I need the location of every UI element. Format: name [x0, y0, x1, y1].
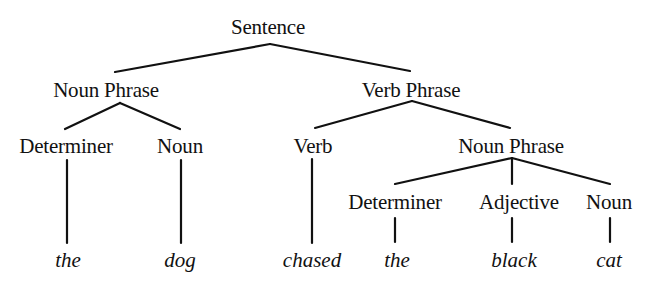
branch-np1-det: [65, 103, 120, 129]
branch-vp-verb: [315, 101, 412, 128]
word-the-1: the: [55, 249, 81, 271]
syntax-tree-diagram: Sentence Noun Phrase Verb Phrase Determi…: [0, 0, 647, 290]
branch-np2-noun: [512, 158, 610, 184]
node-noun-phrase-subject: Noun Phrase: [53, 79, 159, 101]
word-chased: chased: [283, 249, 341, 271]
node-verb: Verb: [294, 135, 333, 157]
branch-sentence-np: [115, 44, 270, 72]
word-dog: dog: [164, 249, 196, 271]
branch-np1-noun: [120, 103, 180, 129]
branch-np2-det: [395, 158, 512, 184]
node-determiner-object: Determiner: [348, 191, 442, 213]
node-verb-phrase: Verb Phrase: [362, 79, 461, 101]
branch-sentence-vp: [270, 44, 410, 71]
node-noun-subject: Noun: [157, 135, 203, 157]
word-the-2: the: [384, 249, 410, 271]
node-noun-phrase-object: Noun Phrase: [458, 135, 564, 157]
branch-vp-np2: [412, 101, 510, 128]
word-cat: cat: [596, 249, 622, 271]
node-noun-object: Noun: [586, 191, 632, 213]
node-adjective: Adjective: [479, 191, 559, 213]
word-black: black: [491, 249, 536, 271]
node-sentence: Sentence: [231, 16, 305, 38]
node-determiner-subject: Determiner: [19, 135, 113, 157]
